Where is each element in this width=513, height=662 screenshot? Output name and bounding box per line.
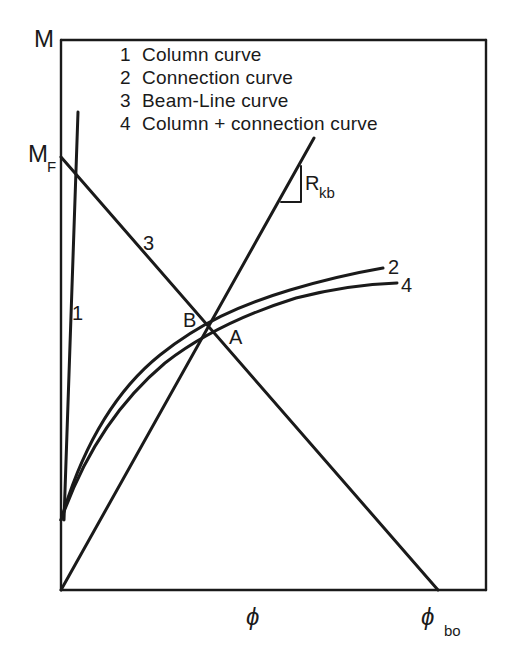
legend-item-1-num: 1 [120,44,131,65]
curve-1-label: 1 [72,302,83,324]
x-axis-label: ϕ [246,603,259,630]
rkb-main: R [305,172,319,194]
legend-item-4-text: Column + connection curve [142,113,378,134]
slope-triangle [281,166,301,202]
mf-label-sub: F [47,158,56,175]
mf-label: M F [28,140,56,175]
rkb-label: R kb [305,172,335,201]
legend-item-4-num: 4 [120,113,131,134]
rkb-stiffness-line [61,138,314,590]
mf-label-main: M [28,140,48,167]
curve-2-label: 2 [388,256,399,278]
moment-rotation-diagram: M ϕ M F ϕ bo 1 Column curve 2 Connection… [0,0,513,662]
point-a-label: A [229,326,243,348]
legend: 1 Column curve 2 Connection curve 3 Beam… [120,44,378,134]
legend-item-3-num: 3 [120,90,131,111]
rkb-sub: kb [319,184,335,201]
y-axis-label: M [34,25,54,52]
phi-bo-main: ϕ [421,603,434,630]
point-b-label: B [183,309,196,331]
legend-item-3-text: Beam-Line curve [142,90,289,111]
connection-curve-2 [61,268,383,520]
legend-item-2-text: Connection curve [142,67,293,88]
legend-item-1-text: Column curve [142,44,262,65]
phi-bo-sub: bo [444,622,461,639]
beam-line-curve-3 [61,157,438,590]
curve-4-label: 4 [401,274,412,296]
phi-bo-label: ϕ bo [421,603,461,639]
curve-3-label: 3 [143,232,154,254]
legend-item-2-num: 2 [120,67,131,88]
